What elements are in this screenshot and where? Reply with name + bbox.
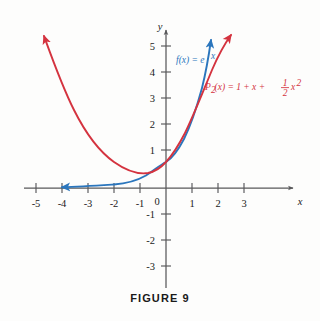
red-fn-name: P [204, 82, 211, 92]
x-tick-label: -1 [136, 198, 145, 209]
x-tick-label: -2 [110, 198, 119, 209]
annotation-red-function: P 2 (x) = 1 + x + 1 2 x 2 [204, 78, 302, 98]
axis-lines [24, 30, 293, 288]
y-tick-label: 3 [150, 93, 155, 104]
origin-label: 0 [154, 196, 159, 207]
x-tick-label: 3 [241, 198, 246, 209]
plot-area: -5 -4 -3 -2 -1 1 2 3 5 4 3 2 1 -1 -2 -3 … [0, 0, 320, 292]
y-tick-labels: 5 4 3 2 1 -1 -2 -3 [146, 41, 156, 272]
x-tick-label: -5 [32, 198, 41, 209]
x-axis-label: x [297, 196, 303, 207]
y-tick-label: 4 [150, 67, 156, 78]
y-tick-label: 2 [150, 119, 155, 130]
red-fn-body: (x) = 1 + x + [215, 82, 266, 93]
blue-fn-exponent: x [210, 51, 216, 61]
x-tick-label: 2 [215, 198, 220, 209]
x-tick-label: -3 [84, 198, 93, 209]
blue-fn-text: f(x) = e [176, 55, 205, 66]
figure-container: -5 -4 -3 -2 -1 1 2 3 5 4 3 2 1 -1 -2 -3 … [0, 0, 320, 321]
y-tick-label: 1 [150, 145, 155, 156]
figure-caption: FIGURE 9 [0, 292, 320, 304]
red-fn-tail-exponent: 2 [297, 78, 302, 88]
red-fn-fraction-numerator: 1 [283, 78, 288, 88]
y-tick-label: 5 [150, 41, 155, 52]
y-axis-label: y [157, 21, 163, 32]
x-tick-label: 1 [189, 198, 194, 209]
red-fn-fraction-denominator: 2 [283, 88, 288, 98]
red-fn-tail: x [290, 82, 296, 92]
y-tick-label: -2 [146, 235, 155, 246]
x-tick-label: -4 [58, 198, 67, 209]
x-tick-labels: -5 -4 -3 -2 -1 1 2 3 [32, 198, 247, 209]
y-tick-label: -1 [146, 209, 155, 220]
y-tick-label: -3 [146, 261, 155, 272]
